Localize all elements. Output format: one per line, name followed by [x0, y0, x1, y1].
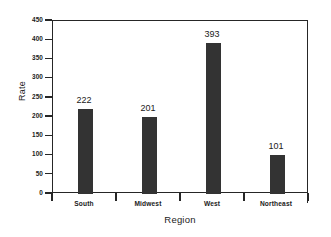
x-tick-label: Midwest [113, 201, 183, 208]
y-tick-label: 450 [3, 17, 43, 23]
bar-value-label: 201 [118, 104, 178, 113]
plot-area [52, 20, 308, 193]
x-tick-mark [243, 193, 244, 201]
y-tick-label: 250 [3, 94, 43, 100]
y-tick-label: 400 [3, 36, 43, 42]
y-tick-mark [45, 173, 52, 174]
y-tick-mark [45, 135, 52, 136]
x-tick-label: Northeast [241, 201, 311, 208]
bar [206, 43, 221, 194]
y-tick-label: 50 [3, 171, 43, 177]
x-tick-mark [115, 193, 116, 201]
bar-chart: Rate 050100150200250300350400450 2222013… [0, 0, 331, 237]
x-tick-label: South [49, 201, 119, 208]
x-tick-mark [179, 193, 180, 201]
y-tick-mark [45, 58, 52, 59]
bar-value-label: 393 [182, 30, 242, 39]
y-tick-label: 350 [3, 55, 43, 61]
y-tick-label: 0 [3, 190, 43, 196]
bar-value-label: 222 [54, 96, 114, 105]
x-tick-label: West [177, 201, 247, 208]
bar [78, 109, 93, 194]
y-tick-label: 200 [3, 113, 43, 119]
y-tick-label: 300 [3, 74, 43, 80]
y-tick-mark [45, 96, 52, 97]
bar [270, 155, 285, 194]
y-tick-label: 150 [3, 132, 43, 138]
y-tick-mark [45, 115, 52, 116]
y-tick-label: 100 [3, 151, 43, 157]
y-tick-mark [45, 77, 52, 78]
bar-value-label: 101 [246, 142, 306, 151]
y-tick-mark [45, 39, 52, 40]
y-tick-mark [45, 19, 52, 20]
bar [142, 117, 157, 194]
x-axis-title: Region [52, 214, 308, 225]
y-tick-mark [45, 154, 52, 155]
x-tick-mark [307, 193, 308, 201]
x-tick-mark [51, 193, 52, 201]
